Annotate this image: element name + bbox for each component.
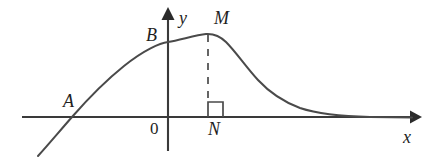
- function-curve: [38, 34, 412, 156]
- y-axis-label: y: [179, 9, 187, 27]
- origin-label: 0: [150, 120, 159, 137]
- point-label-B: B: [146, 26, 157, 44]
- y-axis-arrowhead: [162, 7, 175, 20]
- point-label-A: A: [63, 92, 74, 110]
- function-graph-figure: y B M A 0 N x: [0, 0, 437, 164]
- point-label-M: M: [214, 9, 229, 27]
- x-axis-label: x: [403, 128, 411, 146]
- point-label-N: N: [208, 120, 220, 138]
- right-angle-symbol-at-N: [208, 102, 223, 117]
